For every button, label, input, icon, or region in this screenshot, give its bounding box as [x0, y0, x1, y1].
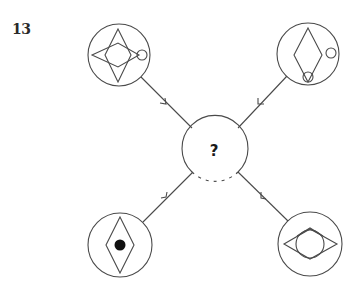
node-top-right	[277, 23, 339, 85]
filled-dot-icon	[115, 240, 126, 251]
horizontal-diamond-icon	[92, 43, 139, 67]
center-node: ?	[182, 115, 248, 181]
question-mark: ?	[210, 142, 219, 160]
connector-top-left	[141, 77, 192, 128]
puzzle-page: 13 ?	[0, 0, 354, 291]
node-top-left	[88, 24, 150, 86]
connector-bottom-left	[143, 172, 193, 222]
arrowhead-icon	[161, 192, 167, 198]
horizontal-diamond-icon	[284, 229, 337, 259]
node-bottom-right	[278, 212, 342, 276]
small-circle-right-icon	[326, 48, 336, 58]
vertical-diamond-icon	[294, 28, 322, 82]
connector-bottom-right	[238, 172, 288, 221]
vertical-diamond-icon	[105, 29, 131, 82]
small-circle-bottom-icon	[303, 72, 313, 82]
node-bottom-left	[88, 213, 152, 277]
connector-top-right	[238, 76, 287, 128]
symbol-puzzle-diagram: ?	[0, 0, 354, 291]
